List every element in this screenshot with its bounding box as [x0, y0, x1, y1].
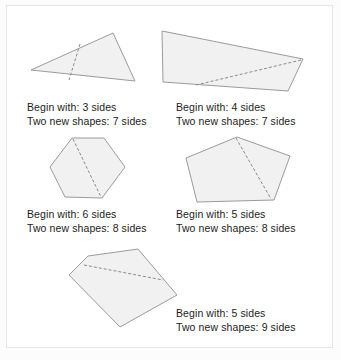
- panel-4-graphic: [186, 137, 290, 202]
- panel-4-begin-label: Begin with: 5 sides: [176, 208, 296, 222]
- pentagon-shape-upper: [186, 137, 290, 202]
- panel-5-caption: Begin with: 5 sides Two new shapes: 9 si…: [176, 307, 296, 334]
- panel-3-graphic: [50, 138, 125, 198]
- panel-4-result-label: Two new shapes: 8 sides: [176, 222, 296, 236]
- quadrilateral-shape: [162, 31, 303, 91]
- panel-4-caption: Begin with: 5 sides Two new shapes: 8 si…: [176, 208, 296, 235]
- panel-2-graphic: [162, 31, 303, 91]
- panel-1-result-label: Two new shapes: 7 sides: [27, 115, 147, 129]
- panel-1-begin-label: Begin with: 3 sides: [27, 101, 147, 115]
- panel-3-result-label: Two new shapes: 8 sides: [27, 222, 147, 236]
- panel-1-caption: Begin with: 3 sides Two new shapes: 7 si…: [27, 101, 147, 128]
- panel-3-caption: Begin with: 6 sides Two new shapes: 8 si…: [27, 208, 147, 235]
- panel-1-graphic: [31, 33, 135, 81]
- polygon-diagram: [0, 0, 341, 360]
- panel-5-result-label: Two new shapes: 9 sides: [176, 321, 296, 335]
- triangle-shape: [31, 33, 135, 81]
- panel-3-begin-label: Begin with: 6 sides: [27, 208, 147, 222]
- panel-2-begin-label: Begin with: 4 sides: [176, 101, 296, 115]
- pentagon-shape-lower: [69, 249, 177, 327]
- panel-2-result-label: Two new shapes: 7 sides: [176, 115, 296, 129]
- panel-5-begin-label: Begin with: 5 sides: [176, 307, 296, 321]
- figure-page: Begin with: 3 sides Two new shapes: 7 si…: [0, 0, 341, 360]
- panel-2-caption: Begin with: 4 sides Two new shapes: 7 si…: [176, 101, 296, 128]
- panel-5-graphic: [69, 249, 177, 327]
